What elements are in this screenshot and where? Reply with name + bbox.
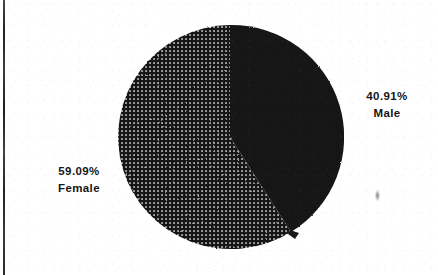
pie-label-female: 59.09% Female xyxy=(44,163,114,197)
pie-label-female-percent: 59.09% xyxy=(44,163,114,180)
arc-notch-mark xyxy=(288,230,299,239)
pie-label-male-percent: 40.91% xyxy=(357,88,417,105)
scan-speck-artifact xyxy=(375,190,380,201)
pie-chart-svg xyxy=(116,25,344,249)
pie-label-male-name: Male xyxy=(357,105,417,122)
pie-chart-figure: 40.91% Male 59.09% Female xyxy=(0,0,438,275)
pie-label-male: 40.91% Male xyxy=(357,88,417,122)
pie-chart xyxy=(116,25,344,249)
page-frame-rule xyxy=(3,0,5,275)
pie-label-female-name: Female xyxy=(44,180,114,197)
